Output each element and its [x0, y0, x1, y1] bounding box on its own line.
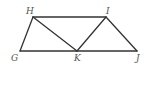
- point-label-g: G: [11, 53, 18, 63]
- segment-ij: [106, 17, 137, 51]
- segment-hk: [33, 17, 77, 51]
- point-label-i: I: [105, 6, 110, 16]
- geometry-diagram: H I G K J: [0, 0, 150, 85]
- segment-ki: [77, 17, 106, 51]
- point-label-k: K: [73, 53, 82, 63]
- point-label-j: J: [134, 53, 141, 63]
- segment-gh: [20, 17, 33, 51]
- point-label-h: H: [25, 6, 34, 16]
